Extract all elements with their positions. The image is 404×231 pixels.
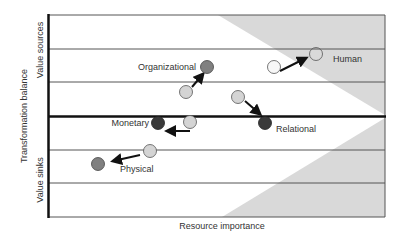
monetary-label: Monetary [111, 118, 149, 128]
organizational-end-dot [201, 61, 214, 74]
physical-start-dot [144, 145, 157, 158]
value-sinks-label: Value sinks [35, 157, 45, 203]
human-start-dot [268, 61, 281, 74]
value-sources-label: Value sources [35, 21, 45, 78]
x-axis-label: Resource importance [179, 221, 265, 231]
relational-start-dot [232, 91, 245, 104]
resource-transformation-diagram: Transformation balance Value sources Val… [0, 0, 404, 231]
relational-label: Relational [276, 124, 316, 134]
organizational-label: Organizational [138, 62, 196, 72]
organizational-start-dot [180, 86, 193, 99]
monetary-start-dot [184, 116, 197, 129]
physical-end-dot [92, 158, 105, 171]
monetary-end-dot [152, 117, 165, 130]
y-axis-label: Transformation balance [19, 69, 29, 163]
physical-label: Physical [120, 164, 154, 174]
human-label: Human [333, 54, 362, 64]
relational-end-dot [259, 117, 272, 130]
